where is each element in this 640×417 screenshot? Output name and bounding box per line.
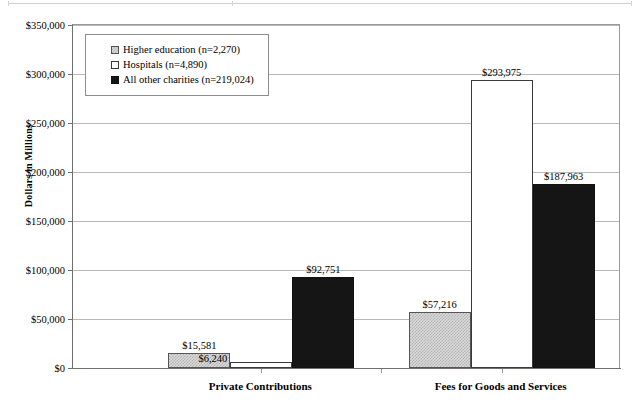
y-axis-tick bbox=[68, 123, 73, 124]
legend-swatch-icon-higher-education bbox=[111, 46, 119, 54]
bar-hospitals-fees-for-goods-and-services: $293,975 bbox=[471, 80, 533, 368]
bar-value-label: $187,963 bbox=[544, 171, 583, 182]
legend-swatch-icon-all-other-charities bbox=[111, 76, 119, 84]
legend-label-hospitals: Hospitals (n=4,890) bbox=[123, 59, 207, 70]
legend-label-higher-education: Higher education (n=2,270) bbox=[123, 44, 240, 55]
bar-value-label: $92,751 bbox=[306, 264, 340, 275]
y-axis-tick-label: $250,000 bbox=[26, 118, 65, 129]
gridline bbox=[73, 172, 619, 173]
page-edge-tick-right bbox=[631, 1, 632, 6]
y-axis-title: Dollars in Millions bbox=[23, 96, 34, 236]
bar-all-other-charities-private-contributions: $92,751 bbox=[292, 277, 354, 368]
gridline bbox=[73, 25, 619, 26]
page-edge-artifact bbox=[8, 3, 632, 4]
legend-label-all-other-charities: All other charities (n=219,024) bbox=[123, 74, 254, 85]
y-axis-tick bbox=[68, 270, 73, 271]
page-edge-tick-left bbox=[8, 1, 9, 6]
y-axis-tick bbox=[68, 319, 73, 320]
y-axis-tick bbox=[68, 172, 73, 173]
y-axis-tick-label: $0 bbox=[55, 363, 66, 374]
bar-value-label: $6,240 bbox=[198, 353, 227, 364]
bar-higher-education-fees-for-goods-and-services: $57,216 bbox=[409, 312, 471, 368]
y-axis-tick-label: $50,000 bbox=[31, 314, 65, 325]
legend-swatch-icon-hospitals bbox=[111, 61, 119, 69]
y-axis-tick bbox=[68, 25, 73, 26]
x-axis-line bbox=[72, 368, 621, 369]
legend-item-all-other-charities: All other charities (n=219,024) bbox=[86, 72, 268, 87]
chart-legend: Higher education (n=2,270) Hospitals (n=… bbox=[85, 34, 269, 96]
page-edge-tick-mid bbox=[232, 1, 233, 6]
legend-item-hospitals: Hospitals (n=4,890) bbox=[86, 57, 268, 72]
y-axis-tick-label: $350,000 bbox=[26, 20, 65, 31]
y-axis-tick-label: $150,000 bbox=[26, 216, 65, 227]
bar-chart-figure: Dollars in Millions $0$50,000$100,000$15… bbox=[0, 0, 640, 417]
y-axis-tick bbox=[68, 221, 73, 222]
bar-value-label: $293,975 bbox=[482, 67, 521, 78]
y-axis-tick-label: $200,000 bbox=[26, 167, 65, 178]
x-axis-group-label: Fees for Goods and Services bbox=[435, 380, 567, 392]
gridline bbox=[73, 123, 619, 124]
x-axis-group-label: Private Contributions bbox=[209, 380, 312, 392]
bar-all-other-charities-fees-for-goods-and-services: $187,963 bbox=[533, 184, 595, 368]
y-axis-tick bbox=[68, 74, 73, 75]
bar-value-label: $57,216 bbox=[423, 299, 457, 310]
legend-item-higher-education: Higher education (n=2,270) bbox=[86, 42, 268, 57]
bar-value-label: $15,581 bbox=[182, 340, 216, 351]
y-axis-tick-label: $300,000 bbox=[26, 69, 65, 80]
y-axis-tick-label: $100,000 bbox=[26, 265, 65, 276]
